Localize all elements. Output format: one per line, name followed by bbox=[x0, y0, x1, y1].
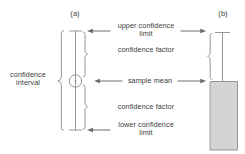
upper-confidence-factor-brace bbox=[83, 32, 87, 77]
panel-b-bar bbox=[211, 82, 238, 151]
panel-b-column bbox=[211, 33, 238, 151]
confidence-factor-lower-label: confidence factor bbox=[108, 103, 184, 111]
upper-limit-arrow-right bbox=[181, 29, 206, 34]
sample-mean-label: sample mean bbox=[122, 77, 178, 85]
confidence-interval-brace bbox=[58, 31, 64, 130]
panel-a-interval-bar bbox=[69, 31, 81, 130]
panel-b-tag: (b) bbox=[203, 10, 243, 18]
lower-confidence-limit-label: lower confidence limit bbox=[110, 121, 182, 138]
sample-mean-arrow-right bbox=[178, 79, 206, 84]
panel-a-mean-marker-dot bbox=[75, 80, 77, 82]
upper-limit-arrow-left bbox=[87, 29, 110, 34]
upper-confidence-limit-label: upper confidence limit bbox=[110, 22, 182, 39]
sample-mean-arrow-left bbox=[94, 79, 122, 84]
figure-canvas: (a) (b) confidence interval upper confid… bbox=[0, 0, 245, 154]
confidence-factor-brace-panel-b bbox=[208, 34, 212, 80]
lower-confidence-factor-brace bbox=[83, 85, 87, 129]
confidence-factor-upper-label: confidence factor bbox=[108, 46, 184, 54]
confidence-interval-label: confidence interval bbox=[2, 71, 54, 88]
lower-limit-arrow-left bbox=[87, 128, 110, 133]
panel-a-tag: (a) bbox=[55, 10, 95, 18]
